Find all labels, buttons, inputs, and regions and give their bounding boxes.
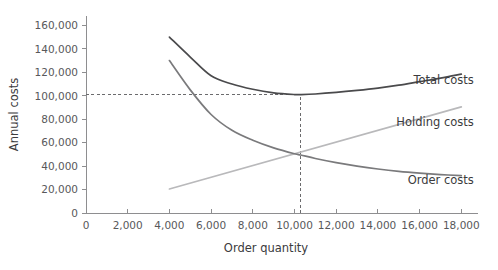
y-axis-title: Annual costs	[7, 78, 21, 151]
y-tick-label: 60,000	[41, 136, 78, 148]
x-tick-label: 18,000	[443, 219, 480, 231]
chart-canvas: 020,00040,00060,00080,000100,000120,0001…	[0, 0, 498, 270]
x-tick-label: 10,000	[276, 219, 313, 231]
y-tick-label: 100,000	[35, 90, 78, 102]
y-tick-label: 40,000	[41, 160, 78, 172]
y-tick-label: 140,000	[35, 43, 78, 55]
y-tick-label: 160,000	[35, 19, 78, 31]
x-tick-label: 2,000	[113, 219, 143, 231]
x-tick-label: 0	[83, 219, 90, 231]
y-tick-label: 0	[71, 207, 78, 219]
series-label-layer: Total costsHolding costsOrder costs	[396, 73, 473, 187]
x-axis-title: Order quantity	[224, 241, 308, 255]
y-tick-label: 120,000	[35, 66, 78, 78]
y-tick-label: 20,000	[41, 183, 78, 195]
eoq-cost-chart: 020,00040,00060,00080,000100,000120,0001…	[0, 0, 498, 270]
y-tick-label: 80,000	[41, 113, 78, 125]
x-tick-label: 4,000	[154, 219, 184, 231]
x-tick-label: 16,000	[401, 219, 438, 231]
x-tick-label: 12,000	[318, 219, 355, 231]
series-label-holding-costs: Holding costs	[396, 115, 473, 129]
x-tick-label: 14,000	[360, 219, 397, 231]
x-tick-label: 8,000	[238, 219, 268, 231]
x-tick-label: 6,000	[196, 219, 226, 231]
series-label-total-costs: Total costs	[412, 73, 473, 87]
y-tick-layer: 020,00040,00060,00080,000100,000120,0001…	[35, 19, 86, 219]
x-tick-layer: 02,0004,0006,0008,00010,00012,00014,0001…	[83, 209, 480, 231]
series-label-order-costs: Order costs	[408, 173, 474, 187]
series-layer	[169, 37, 461, 189]
annotation-layer	[86, 95, 301, 213]
